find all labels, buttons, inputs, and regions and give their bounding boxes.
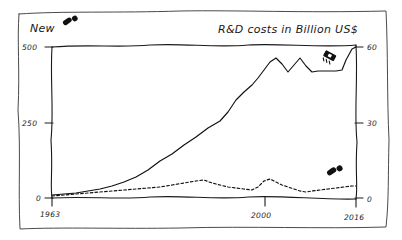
x-tick-label-1963: 1963 xyxy=(40,210,60,219)
bottom-axis xyxy=(52,197,356,200)
series-rd-costs-line xyxy=(52,47,356,195)
pill-capsule-icon xyxy=(62,13,79,28)
pill-capsule-annotation-icon xyxy=(326,163,344,179)
series-new-drugs-line xyxy=(52,179,356,196)
right-tick-label-30: 30 xyxy=(367,119,377,128)
hand-drawn-chart: 500 250 0 60 30 0 1963 2000 2016 New R&D… xyxy=(0,0,402,240)
left-tick-label-250: 250 xyxy=(22,119,37,128)
outer-frame xyxy=(18,11,389,229)
right-tick-label-60: 60 xyxy=(367,43,377,52)
right-axis xyxy=(356,45,357,199)
left-tick-label-0: 0 xyxy=(36,194,41,203)
left-tick-label-500: 500 xyxy=(22,43,37,52)
chart-canvas: 500 250 0 60 30 0 1963 2000 2016 New R&D… xyxy=(0,0,402,240)
legend-label-rd-costs: R&D costs in Billion US$ xyxy=(218,23,358,36)
x-tick-label-2016: 2016 xyxy=(344,213,364,222)
legend-label-new: New xyxy=(30,22,55,35)
plot-top-border xyxy=(52,45,356,47)
right-tick-label-0: 0 xyxy=(367,195,372,204)
x-tick-label-2000: 2000 xyxy=(251,211,271,220)
money-bill-icon xyxy=(321,50,337,65)
